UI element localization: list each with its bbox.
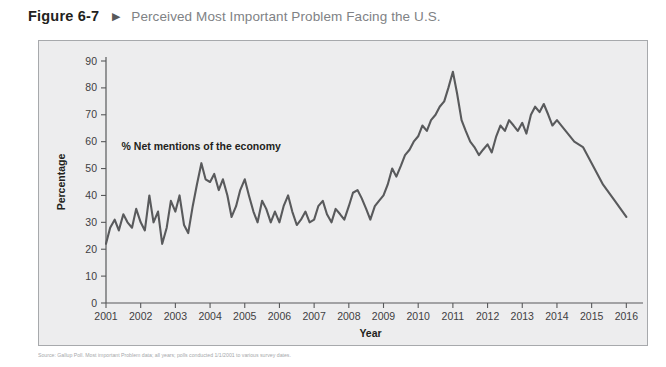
x-tick-label: 2013 — [511, 310, 535, 322]
x-tick-label: 2006 — [268, 310, 292, 322]
y-tick-label: 50 — [85, 162, 97, 174]
source-note: Source: Gallup Poll. Most important Prob… — [38, 352, 658, 360]
x-tick-label: 2012 — [476, 310, 500, 322]
y-tick-label: 20 — [85, 243, 97, 255]
x-tick-label: 2014 — [545, 310, 569, 322]
x-tick-label: 2002 — [129, 310, 153, 322]
figure-title: Perceived Most Important Problem Facing … — [131, 9, 440, 24]
series-annotation-label: % Net mentions of the economy — [122, 140, 281, 152]
chart-plot-area: 0102030405060708090 20012002200320042005… — [39, 41, 649, 347]
figure-header: Figure 6-7 ▶ Perceived Most Important Pr… — [0, 0, 666, 32]
line-chart: 0102030405060708090 20012002200320042005… — [39, 41, 649, 347]
y-tick-label: 30 — [85, 216, 97, 228]
y-axis-title: Percentage — [55, 154, 67, 211]
x-tick-label: 2016 — [615, 310, 639, 322]
x-tick-label: 2009 — [372, 310, 396, 322]
figure-panel: 0102030405060708090 20012002200320042005… — [38, 40, 648, 346]
x-tick-label: 2007 — [302, 310, 326, 322]
x-tick-label: 2001 — [94, 310, 118, 322]
triangle-right-icon: ▶ — [112, 11, 120, 22]
x-tick-label: 2005 — [233, 310, 257, 322]
x-tick-label: 2003 — [164, 310, 188, 322]
y-tick-label: 90 — [85, 55, 97, 67]
x-tick-label: 2008 — [337, 310, 361, 322]
x-tick-label: 2010 — [407, 310, 431, 322]
x-tick-label: 2004 — [198, 310, 222, 322]
y-tick-label: 0 — [91, 297, 97, 309]
x-tick-label: 2015 — [580, 310, 604, 322]
y-tick-label: 40 — [85, 189, 97, 201]
y-tick-label: 80 — [85, 81, 97, 93]
x-axis-title: Year — [359, 327, 381, 339]
y-tick-label: 60 — [85, 135, 97, 147]
x-tick-label: 2011 — [442, 310, 465, 322]
data-series-line — [106, 72, 626, 244]
y-tick-label: 70 — [85, 108, 97, 120]
figure-number: Figure 6-7 — [28, 8, 99, 24]
x-axis-ticks: 2001200220032004200520062007200820092010… — [94, 303, 638, 322]
y-axis-ticks: 0102030405060708090 — [85, 55, 106, 309]
y-tick-label: 10 — [85, 270, 97, 282]
